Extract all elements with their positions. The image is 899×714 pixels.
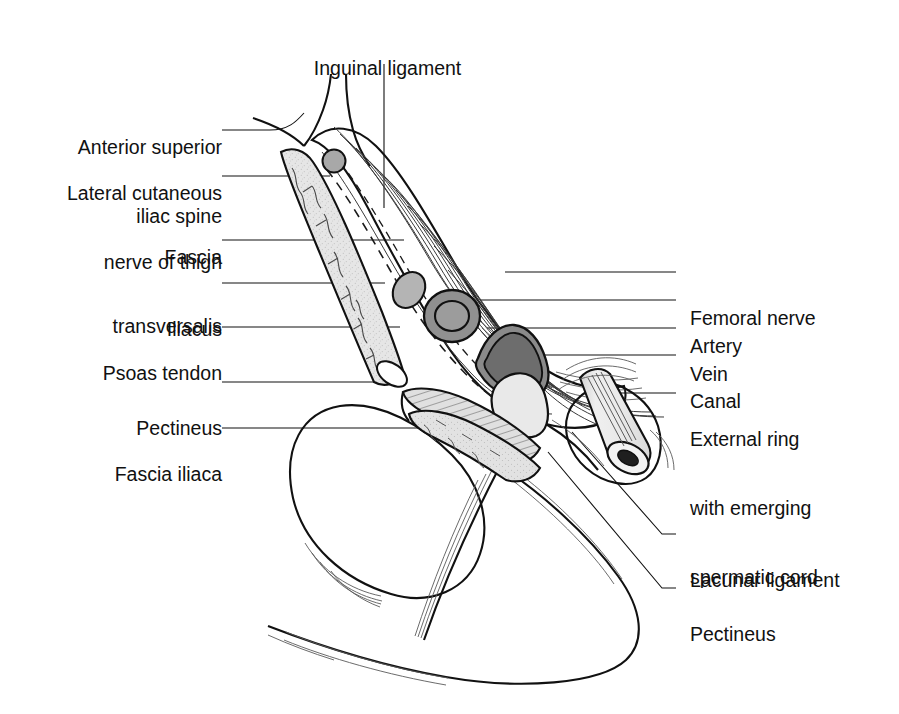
- anterior-superior-iliac-spine: [250, 74, 370, 166]
- femoral-artery: [424, 290, 480, 342]
- label-external-ring-line1: External ring: [690, 428, 818, 451]
- label-external-ring-line2: with emerging: [690, 497, 818, 520]
- label-fascia-iliaca: Fascia iliaca: [10, 417, 222, 509]
- fascia-lata-band: [415, 466, 500, 640]
- label-inguinal-ligament: Inguinal ligament: [303, 34, 461, 80]
- label-fascia-transversalis-line1: Fascia: [10, 246, 222, 269]
- label-pectineus-right: Pectineus: [690, 577, 776, 669]
- label-fascia-iliaca-text: Fascia iliaca: [10, 463, 222, 486]
- label-pectineus-right-text: Pectineus: [690, 623, 776, 646]
- lateral-cutaneous-nerve-of-thigh: [323, 150, 346, 173]
- label-inguinal-ligament-text: Inguinal ligament: [314, 57, 461, 79]
